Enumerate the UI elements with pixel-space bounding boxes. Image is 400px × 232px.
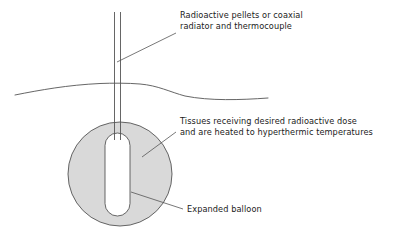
figure-root: Radioactive pellets or coaxial radiator …: [0, 0, 400, 232]
source-label-line-1: Radioactive pellets or coaxial: [180, 10, 303, 20]
tissue-label-line-1: Tissues receiving desired radioactive do…: [179, 116, 357, 126]
source-label-line-2: radiator and thermocouple: [180, 21, 292, 31]
balloon-label: Expanded balloon: [187, 204, 275, 214]
balloon-label-line-1: Expanded balloon: [187, 204, 262, 214]
source-label: Radioactive pellets or coaxial radiator …: [180, 10, 322, 31]
expanded-balloon: [105, 133, 130, 216]
skin-surface-line: [15, 83, 268, 99]
diagram-canvas: Radioactive pellets or coaxial radiator …: [0, 0, 400, 232]
leader-source: [117, 33, 176, 62]
tissue-label-line-2: and are heated to hyperthermic temperatu…: [180, 127, 373, 137]
tissue-label: Tissues receiving desired radioactive do…: [179, 116, 386, 137]
